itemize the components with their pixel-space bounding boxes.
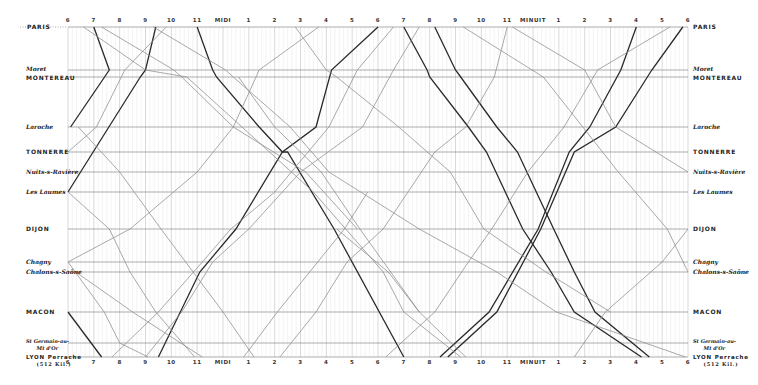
hour-tick-label: 11	[193, 17, 202, 23]
hour-tick-label: 3	[608, 17, 612, 23]
train-line	[512, 27, 688, 172]
hour-tick-label: 4	[324, 359, 328, 365]
hour-tick-label: 6	[66, 17, 70, 23]
station-label: LYON Perrache(512 Kil.)	[693, 354, 749, 368]
station-label: DIJON	[693, 225, 717, 232]
hour-tick-label: MIDI	[215, 359, 232, 365]
hour-tick-label: 6	[686, 359, 690, 365]
station-label: Laroche	[26, 123, 53, 130]
hour-tick-label: 1	[557, 359, 561, 365]
hour-tick-label: 7	[402, 17, 406, 23]
train-line	[337, 229, 466, 357]
hour-tick-label: 3	[608, 359, 612, 365]
station-label: DIJON	[26, 225, 50, 232]
station-label: Nuits-s-Ravière	[26, 168, 78, 175]
hour-tick-label: 5	[660, 17, 664, 23]
hour-tick-label: 1	[557, 17, 561, 23]
hour-tick-label: 2	[272, 17, 276, 23]
station-label: MONTEREAU	[26, 74, 76, 81]
hour-tick-label: 7	[92, 17, 96, 23]
station-label: Les Laumes	[693, 188, 733, 195]
hour-tick-label: 2	[582, 17, 586, 23]
hour-tick-label: 10	[167, 359, 176, 365]
station-label: MACON	[693, 308, 722, 315]
station-label: Moret	[26, 65, 46, 72]
station-label: PARIS	[693, 23, 717, 30]
station-label: TONNERRE	[26, 148, 69, 155]
hour-tick-label: 6	[686, 17, 690, 23]
hour-tick-label: 9	[143, 17, 147, 23]
station-label: Chalons-s-Saône	[693, 268, 749, 275]
hour-tick-label: 1	[247, 17, 251, 23]
hour-tick-label: 9	[453, 359, 457, 365]
hour-tick-label: 10	[477, 17, 486, 23]
hour-tick-label: 8	[117, 17, 121, 23]
hour-tick-label: 11	[503, 17, 512, 23]
hour-tick-label: 6	[66, 359, 70, 365]
station-label: MONTEREAU	[693, 74, 743, 81]
hour-tick-label: 10	[477, 359, 486, 365]
station-label: Moret	[693, 65, 713, 72]
train-line	[68, 312, 102, 357]
hour-tick-label: 5	[350, 17, 354, 23]
hour-tick-label: 3	[298, 359, 302, 365]
hour-tick-label: 4	[634, 17, 638, 23]
hour-tick-label: 5	[660, 359, 664, 365]
station-label: TONNERRE	[693, 148, 736, 155]
hour-tick-label: 6	[376, 17, 380, 23]
station-label: Chagny	[26, 258, 51, 265]
hour-tick-label: 10	[167, 17, 176, 23]
station-label: LYON Perrache(512 Kil.)	[26, 354, 82, 368]
station-label: St Germain-au-Mt d'Or	[26, 338, 69, 352]
station-label: PARIS	[27, 23, 51, 30]
hour-tick-label: 7	[402, 359, 406, 365]
hour-tick-label: MINUIT	[520, 359, 546, 365]
hour-tick-label: 3	[298, 17, 302, 23]
hour-tick-label: 7	[92, 359, 96, 365]
station-label: MACON	[26, 308, 55, 315]
station-label: Laroche	[693, 123, 720, 130]
hour-tick-label: 9	[453, 17, 457, 23]
hour-tick-label: 11	[193, 359, 202, 365]
hour-tick-label: 11	[503, 359, 512, 365]
hour-tick-label: 6	[376, 359, 380, 365]
hour-tick-label: MIDI	[215, 17, 232, 23]
hour-tick-label: 8	[117, 359, 121, 365]
hour-tick-label: 8	[427, 359, 431, 365]
hour-tick-label: 2	[272, 359, 276, 365]
hour-tick-label: 5	[350, 359, 354, 365]
station-label: Chalons-s-Saône	[26, 268, 82, 275]
train-line	[68, 27, 319, 262]
hour-tick-label: 4	[634, 359, 638, 365]
station-label: Nuits-s-Ravière	[693, 168, 745, 175]
hour-tick-label: 9	[143, 359, 147, 365]
station-label: Les Laumes	[26, 188, 66, 195]
train-line	[244, 192, 368, 357]
station-label: Chagny	[693, 258, 718, 265]
hour-tick-label: 8	[427, 17, 431, 23]
hour-tick-label: MINUIT	[520, 17, 546, 23]
hour-tick-label: 2	[582, 359, 586, 365]
train-line	[463, 27, 688, 272]
hour-tick-label: 4	[324, 17, 328, 23]
marey-train-chart	[0, 0, 758, 385]
train-line	[78, 127, 254, 357]
hour-tick-label: 1	[247, 359, 251, 365]
station-label: St Germain-au-Mt d'Or	[693, 338, 736, 352]
